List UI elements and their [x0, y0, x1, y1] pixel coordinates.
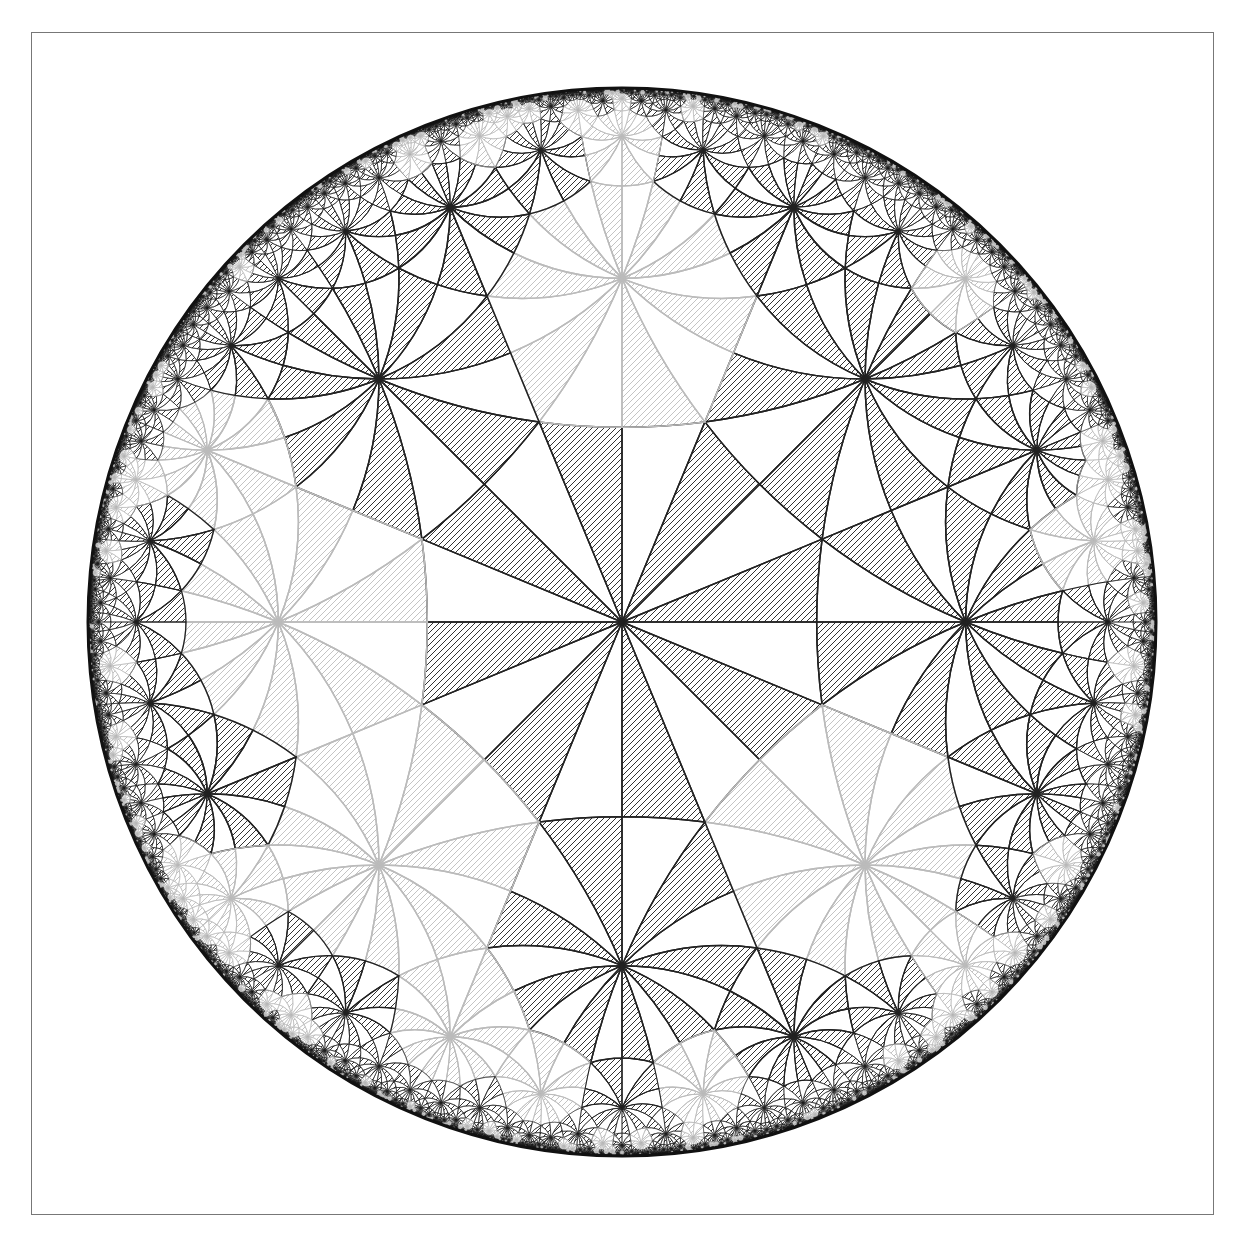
hyperbolic-tiling-disk	[0, 0, 1240, 1248]
